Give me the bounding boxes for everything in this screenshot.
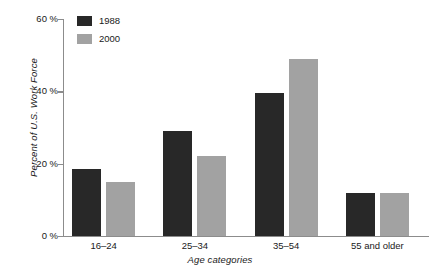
y-axis-tick-labels: 0 % 20 % 40 % 60 % — [20, 0, 58, 275]
legend-label-1988: 1988 — [99, 16, 120, 26]
y-tick-label-20: 20 % — [24, 159, 58, 169]
y-tick-label-60: 60 % — [24, 14, 58, 24]
bar-2000-55-and-older — [380, 193, 409, 236]
legend-swatch-2000 — [77, 34, 92, 44]
bar-1988-25–34 — [163, 131, 192, 236]
category-label: 35–54 — [236, 240, 336, 251]
category-label: 25–34 — [145, 240, 245, 251]
y-tick-mark — [58, 236, 64, 237]
chart-legend: 1988 2000 — [77, 13, 120, 49]
legend-item-2000: 2000 — [77, 31, 120, 46]
bar-1988-16–24 — [72, 169, 101, 236]
legend-swatch-1988 — [77, 16, 92, 26]
category-label: 55 and older — [327, 240, 427, 251]
bar-2000-35–54 — [289, 59, 318, 236]
legend-item-1988: 1988 — [77, 13, 120, 28]
x-axis-title: Age categories — [0, 254, 432, 265]
category-label: 16–24 — [54, 240, 154, 251]
bar-2000-25–34 — [197, 156, 226, 236]
plot-area — [64, 19, 429, 236]
bar-1988-55-and-older — [346, 193, 375, 236]
bar-1988-35–54 — [255, 93, 284, 236]
y-tick-label-40: 40 % — [24, 86, 58, 96]
bar-chart: Percent of U.S. Work Force 0 % 20 % 40 %… — [0, 0, 432, 275]
legend-label-2000: 2000 — [99, 34, 120, 44]
bar-2000-16–24 — [106, 182, 135, 236]
